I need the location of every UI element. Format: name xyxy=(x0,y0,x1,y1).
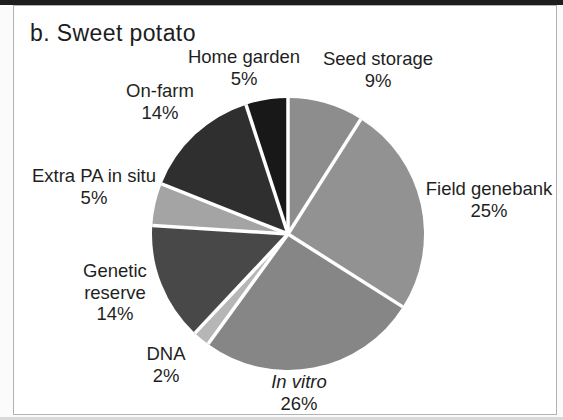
pie-chart xyxy=(0,0,563,420)
